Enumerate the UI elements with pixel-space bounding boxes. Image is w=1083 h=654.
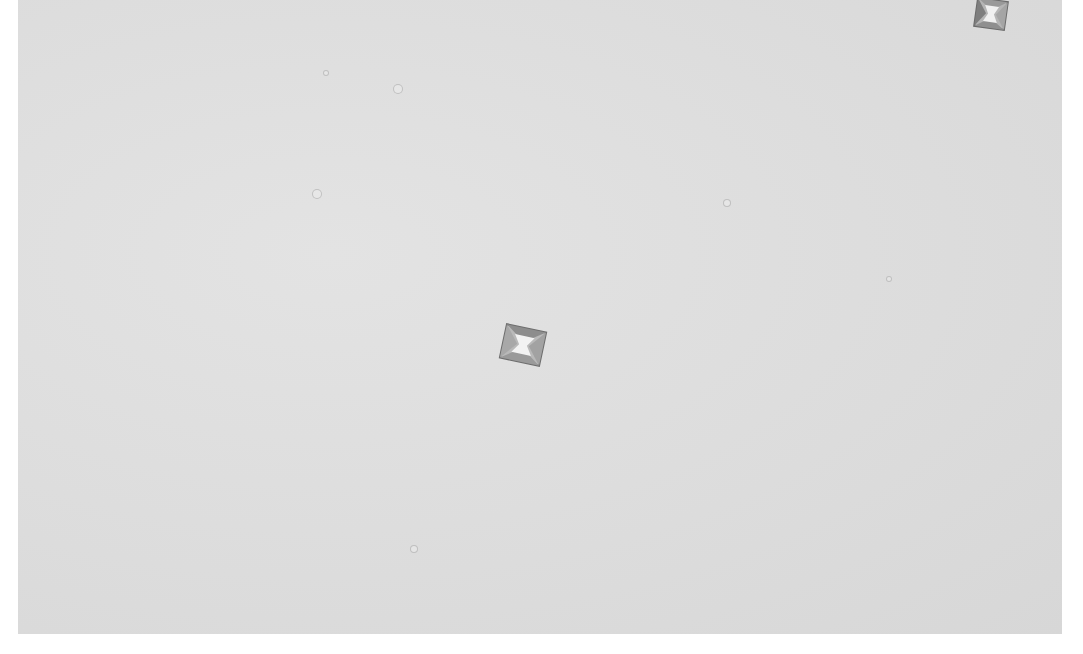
debris-speck <box>323 70 329 76</box>
debris-speck <box>312 189 322 199</box>
micrograph-field <box>18 0 1062 634</box>
crystal-center <box>497 322 549 368</box>
debris-speck <box>393 84 403 94</box>
debris-speck <box>886 276 892 282</box>
crystal-top-right <box>972 0 1010 32</box>
debris-speck <box>410 545 418 553</box>
debris-speck <box>723 199 731 207</box>
